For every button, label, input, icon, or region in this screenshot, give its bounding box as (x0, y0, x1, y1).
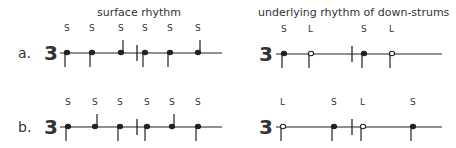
filled-notehead-icon (410, 124, 415, 128)
note-label-long: L (280, 97, 285, 107)
open-notehead-icon (360, 124, 365, 128)
note-label-short: S (195, 97, 201, 107)
note-label-short: S (118, 23, 124, 33)
open-notehead-icon (308, 51, 313, 55)
filled-notehead-icon (169, 124, 174, 128)
note-label-short: S (167, 23, 173, 33)
filled-notehead-icon (195, 124, 200, 128)
note-label-short: S (117, 97, 123, 107)
note-label-short: S (89, 23, 95, 33)
time-signature-b-right: 3 (259, 115, 273, 139)
note-label-short: S (64, 23, 70, 33)
filled-notehead-icon (167, 50, 172, 54)
row-label-b: b. (18, 119, 31, 135)
row-label-a: a. (18, 45, 31, 61)
time-signature-a-left: 3 (44, 41, 58, 65)
note-label-long: L (308, 24, 313, 34)
filled-notehead-icon (92, 124, 97, 128)
filled-notehead-icon (64, 50, 69, 54)
note-label-short: S (410, 97, 416, 107)
filled-notehead-icon (117, 124, 122, 128)
filled-notehead-icon (281, 51, 286, 55)
filled-notehead-icon (331, 124, 336, 128)
staves: SSSSSSSLSLSSSSSSLSLS (60, 23, 442, 141)
note-label-short: S (331, 97, 337, 107)
note-label-short: S (144, 97, 150, 107)
filled-notehead-icon (144, 124, 149, 128)
filled-notehead-icon (361, 51, 366, 55)
open-notehead-icon (389, 51, 394, 55)
note-label-short: S (361, 24, 367, 34)
note-label-long: L (360, 97, 365, 107)
heading-surface-rhythm: surface rhythm (97, 6, 181, 19)
note-label-short: S (65, 97, 71, 107)
filled-notehead-icon (89, 50, 94, 54)
note-label-short: S (142, 23, 148, 33)
note-label-short: S (281, 24, 287, 34)
time-signature-b-left: 3 (44, 115, 58, 139)
note-label-short: S (169, 97, 175, 107)
note-label-long: L (389, 24, 394, 34)
filled-notehead-icon (142, 50, 147, 54)
note-label-short: S (92, 97, 98, 107)
open-notehead-icon (280, 124, 285, 128)
filled-notehead-icon (195, 50, 200, 54)
rhythm-diagram: surface rhythm underlying rhythm of down… (0, 0, 456, 148)
filled-notehead-icon (118, 50, 123, 54)
filled-notehead-icon (65, 124, 70, 128)
heading-underlying-rhythm: underlying rhythm of down-strums (258, 6, 450, 19)
note-label-short: S (195, 23, 201, 33)
time-signature-a-right: 3 (259, 42, 273, 66)
